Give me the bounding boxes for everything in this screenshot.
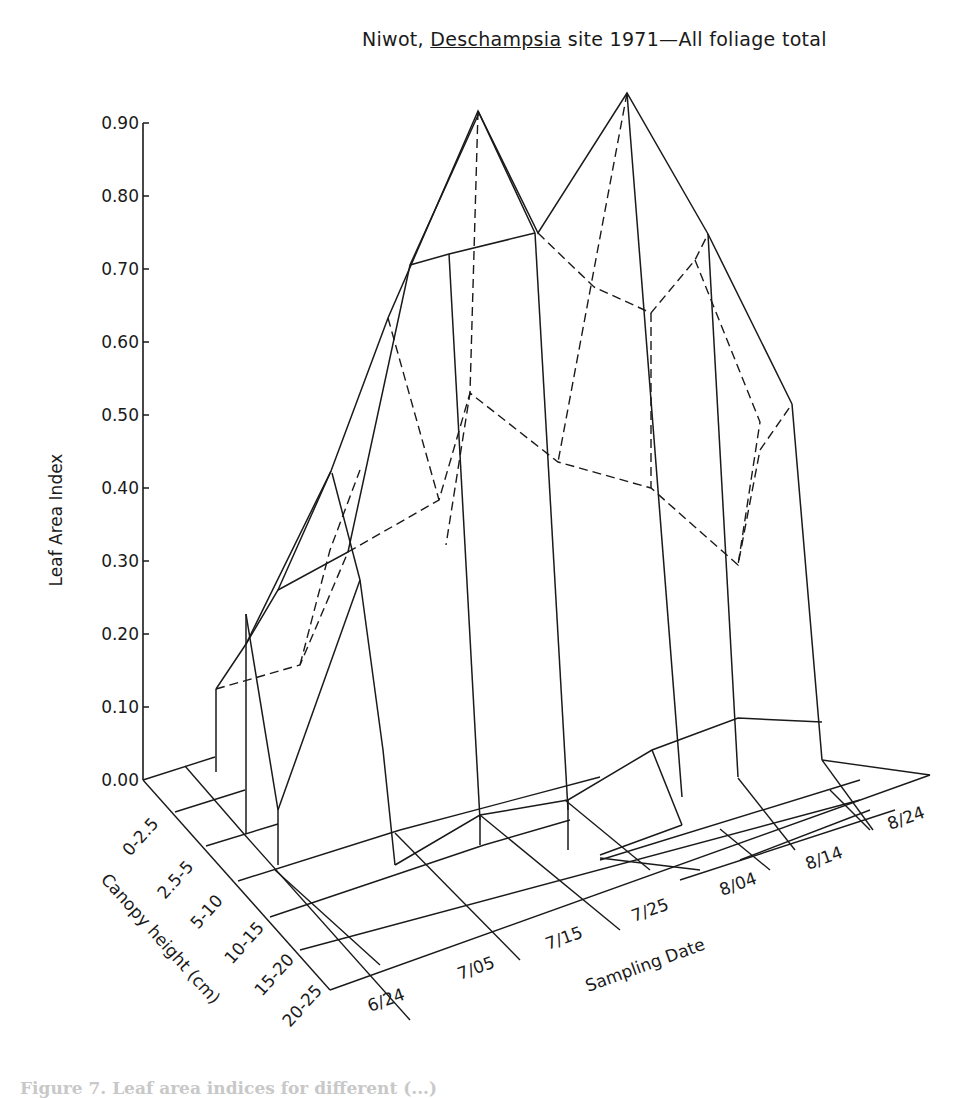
canopy-labels: 0-2.5 2.5-5 5-10 10-15 15-20 20-25 Canop…: [97, 814, 326, 1031]
y-axis: 0.00 0.10 0.20 0.30 0.40 0.50 0.60 0.70 …: [46, 113, 149, 790]
date-label: 8/24: [885, 802, 928, 834]
y-tick-label: 0.70: [101, 259, 139, 279]
y-tick-label: 0.20: [101, 624, 139, 644]
canopy-layer-label: 5-10: [186, 891, 227, 933]
y-tick-label: 0.40: [101, 478, 139, 498]
y-tick-label: 0.10: [101, 697, 139, 717]
canopy-layer-label: 10-15: [220, 918, 268, 968]
date-label: 7/05: [455, 952, 498, 984]
date-label: 7/15: [543, 922, 586, 954]
y-tick-label: 0.50: [101, 405, 139, 425]
canopy-layer-label: 2.5-5: [153, 857, 197, 903]
date-label: 8/04: [717, 868, 760, 900]
canopy-layer-label: 0-2.5: [118, 814, 162, 860]
x-axis-label: Sampling Date: [583, 934, 708, 996]
y-tick-label: 0.60: [101, 332, 139, 352]
figure-caption: Figure 7. Leaf area indices for differen…: [20, 1078, 437, 1098]
y-tick-label: 0.80: [101, 186, 139, 206]
surface-wireframe: [216, 93, 822, 865]
date-label: 7/25: [629, 894, 672, 926]
y-tick-label: 0.90: [101, 113, 139, 133]
canopy-layer-label: 15-20: [250, 950, 298, 1000]
date-label: 6/24: [365, 984, 408, 1016]
date-label: 8/14: [803, 842, 846, 874]
canopy-layer-label: 20-25: [278, 981, 326, 1031]
y-tick-label: 0.30: [101, 551, 139, 571]
y-axis-label: Leaf Area Index: [46, 454, 66, 587]
y-tick-label: 0.00: [101, 770, 139, 790]
